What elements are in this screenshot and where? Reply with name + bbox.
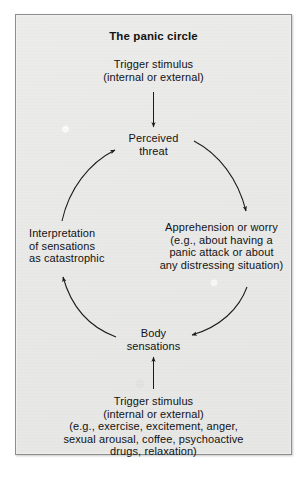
node-perceived-threat: Perceived threat bbox=[16, 132, 291, 157]
figure-title: The panic circle bbox=[16, 29, 291, 43]
node-body-sensations: Body sensations bbox=[16, 327, 291, 352]
node-apprehension-or-worry: Apprehension or worry (e.g., about havin… bbox=[152, 221, 291, 271]
panic-circle-figure: The panic circle Trigger stimulus (inter… bbox=[0, 0, 308, 479]
arrow-interpretation-to-perceived-threat bbox=[62, 150, 115, 221]
figure-panel: The panic circle Trigger stimulus (inter… bbox=[15, 14, 292, 455]
node-trigger-stimulus-bottom: Trigger stimulus (internal or external) … bbox=[16, 395, 291, 458]
figure-content: The panic circle Trigger stimulus (inter… bbox=[16, 15, 291, 454]
node-interpretation-of-sensations: Interpretation of sensations as catastro… bbox=[29, 227, 149, 265]
node-trigger-stimulus-top: Trigger stimulus (internal or external) bbox=[16, 58, 291, 83]
